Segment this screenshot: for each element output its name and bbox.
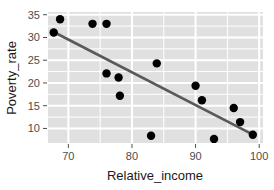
x-tick-label: 70	[62, 150, 74, 162]
y-axis-tick-labels: 101520253035	[28, 9, 40, 135]
scatter-chart: 708090100 101520253035 Relative_income P…	[0, 0, 274, 190]
y-tick-label: 25	[28, 54, 40, 66]
x-tick-label: 100	[250, 150, 268, 162]
y-tick-label: 35	[28, 9, 40, 21]
y-tick-label: 30	[28, 31, 40, 43]
x-tick-label: 90	[189, 150, 201, 162]
x-axis-title: Relative_income	[107, 168, 203, 183]
y-tick-label: 15	[28, 100, 40, 112]
y-tick-label: 20	[28, 77, 40, 89]
y-axis-title: Poverty_rate	[4, 41, 19, 115]
x-tick-label: 80	[126, 150, 138, 162]
x-axis-tick-labels: 708090100	[62, 150, 268, 162]
plot-canvas: 708090100 101520253035 Relative_income P…	[0, 0, 274, 190]
y-tick-label: 10	[28, 122, 40, 134]
